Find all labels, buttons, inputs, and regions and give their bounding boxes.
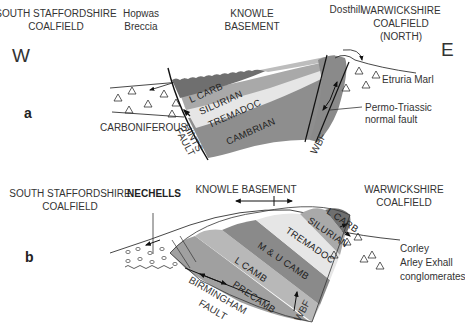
header-south-staffordshire-a-line1: SOUTH STAFFORDSHIRE [0,8,117,19]
label-corley-line3: conglomerates [400,271,465,282]
header-warwickshire-b-line1: WARWICKSHIRE [364,184,444,195]
header-south-staffordshire-a-line2: COALFIELD [28,21,84,32]
header-south-staffordshire-b-line1: SOUTH STAFFORDSHIRE [9,188,131,199]
header-knowle-a-line1: KNOWLE [230,8,274,19]
etruria-triangles [342,67,380,91]
label-corley-line1: Corley [400,243,429,254]
label-etruria-marl: Etruria Marl [382,74,434,85]
conglomerate-pebbles [126,247,177,265]
panel-label-b: b [25,249,34,265]
panel-label-a: a [24,105,32,121]
header-hopwas-line1: Hopwas [123,8,159,19]
header-hopwas-line2: Breccia [124,21,158,32]
header-warwickshire-a-line2: COALFIELD [373,18,429,29]
header-warwickshire-b-line2: COALFIELD [376,197,432,208]
section-b: SOUTH STAFFORDSHIRE COALFIELD NECHELLS K… [9,184,465,323]
geological-cross-section-diagram: SOUTH STAFFORDSHIRE COALFIELD Hopwas Bre… [0,0,465,330]
label-corley-line2: Arley Exhall [400,257,453,268]
header-warwickshire-a-line3: (NORTH) [380,31,422,42]
header-knowle-a-line2: BASEMENT [224,21,279,32]
header-knowle-b: KNOWLE BASEMENT [195,184,296,195]
section-a: SOUTH STAFFORDSHIRE COALFIELD Hopwas Bre… [0,4,454,160]
header-warwickshire-a-line1: WARWICKSHIRE [361,5,441,16]
header-nechells: NECHELLS [127,188,181,199]
header-south-staffordshire-b-line2: COALFIELD [42,201,98,212]
header-dosthill: Dosthill [330,4,363,15]
label-permo-triassic-line2: normal fault [365,114,417,125]
direction-east: E [441,39,454,60]
direction-west: W [12,45,30,66]
label-permo-triassic-line1: Permo-Triassic [365,102,432,113]
